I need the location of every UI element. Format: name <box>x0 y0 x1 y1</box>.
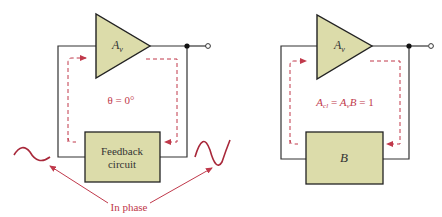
in-phase-label: In phase <box>111 201 148 213</box>
feedback-circuit-label-line2: circuit <box>108 158 136 170</box>
left-circuit: Av θ = 0° Feedback circuit In phase <box>14 14 230 213</box>
left-output-node <box>184 43 189 48</box>
b-feedback-label: B <box>340 150 348 165</box>
right-output-terminal <box>429 44 434 49</box>
feedback-diagram: Av θ = 0° Feedback circuit In phase Av A… <box>0 0 442 217</box>
right-output-node <box>406 43 411 48</box>
feedback-circuit-block <box>85 132 160 182</box>
left-loop-path-right <box>146 59 177 142</box>
left-loop-path <box>68 58 86 142</box>
left-amplifier-icon <box>96 14 150 78</box>
right-loop-path-bottom <box>290 140 298 144</box>
feedback-circuit-label-line1: Feedback <box>101 145 144 157</box>
left-output-terminal <box>206 44 211 49</box>
right-loop-path <box>290 61 306 144</box>
right-circuit: Av Acl = AvB = 1 B <box>281 15 433 184</box>
closed-loop-gain-equation: Acl = AvB = 1 <box>315 96 373 110</box>
left-input-sine-icon <box>14 148 50 161</box>
phase-angle-label: θ = 0° <box>108 94 135 106</box>
left-output-sine-icon <box>195 140 230 165</box>
left-loop-path-bottom <box>68 138 76 142</box>
